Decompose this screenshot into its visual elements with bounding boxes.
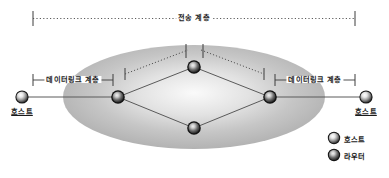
legend-label-host: 호스트 [344, 134, 365, 144]
label-host-left: 호스트 [11, 108, 33, 115]
node-host-right[interactable] [359, 90, 372, 103]
diagram-canvas [0, 0, 389, 178]
legend-marker-router [328, 149, 340, 161]
node-router-top[interactable] [187, 60, 201, 74]
label-datalink-layer-right: 데이터링크 계층 [286, 76, 343, 83]
label-transport-layer: 전송 계층 [176, 14, 212, 21]
node-router-left[interactable] [111, 90, 125, 104]
label-host-right: 호스트 [355, 108, 377, 115]
label-datalink-layer-left: 데이터링크 계층 [44, 76, 101, 83]
legend-label-router: 라우터 [344, 151, 365, 161]
node-host-left[interactable] [15, 90, 28, 103]
node-router-right[interactable] [263, 90, 277, 104]
network-layer-diagram: 전송 계층 데이터링크 계층 데이터링크 계층 호스트 호스트 호스트 라우터 [0, 0, 389, 178]
node-router-bottom[interactable] [187, 121, 201, 135]
legend-marker-host [328, 132, 340, 144]
